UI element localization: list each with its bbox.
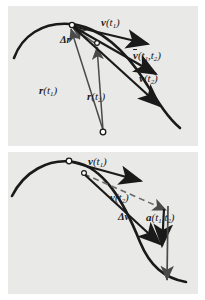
top-panel-graphics: [8, 6, 198, 146]
trajectory-curve: [12, 161, 186, 282]
origin-point: [100, 129, 106, 135]
point-t2: [82, 171, 87, 176]
point-t2: [95, 41, 100, 46]
delta-v-vector: [162, 209, 164, 246]
position-vector-t2: [97, 47, 103, 130]
point-t1: [69, 22, 74, 27]
average-velocity-vector: [72, 26, 156, 74]
panel-velocity-acceleration: [8, 152, 198, 294]
physics-vector-figure: v(t1) v(t1,t2) v(t2) Δr r(t1) r(t2): [0, 0, 205, 300]
dashed-transport-line: [84, 174, 166, 210]
average-acceleration-vector: [167, 206, 168, 280]
bottom-panel-graphics: [8, 152, 198, 294]
point-t1: [66, 158, 72, 164]
velocity-vector-t2: [84, 174, 160, 244]
panel-displacement-velocity: [8, 6, 198, 146]
velocity-vector-t2: [72, 26, 160, 106]
